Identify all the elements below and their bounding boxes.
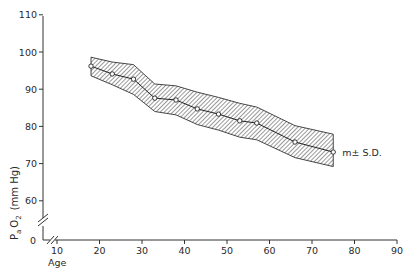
data-point-marker [89,64,93,68]
y-origin-label: 0 [30,235,36,246]
y-tick-label: 100 [19,47,37,58]
x-tick-label: 90 [391,245,403,256]
data-point-marker [174,98,178,102]
data-point-marker [195,107,199,111]
y-tick-label: 60 [25,195,37,206]
x-tick-label: 70 [306,245,318,256]
x-tick-label: 10 [51,245,63,256]
data-point-marker [238,119,242,123]
sd-band-fill [91,57,333,166]
legend-label: m± S.D. [342,147,382,158]
x-tick-label: 60 [263,245,275,256]
y-tick-label: 110 [19,9,37,20]
data-point-marker [255,121,259,125]
data-point-marker [216,112,220,116]
pao2-vs-age-chart: 11010090807060 0 102030405060708090 Age … [0,0,410,278]
x-tick-label: 30 [136,245,148,256]
y-tick-label: 80 [25,121,37,132]
y-ticks: 11010090807060 [19,9,43,206]
chart-container: 11010090807060 0 102030405060708090 Age … [0,0,410,278]
y-axis: 11010090807060 0 [19,9,48,245]
x-tick-label: 40 [178,245,190,256]
data-point-marker [153,96,157,100]
y-axis-label: PaO2(mm Hg) [9,166,23,240]
x-axis: 102030405060708090 Age [43,236,403,268]
data-point-marker [110,72,114,76]
data-point-marker [131,77,135,81]
y-tick-label: 90 [25,84,37,95]
data-point-marker [293,140,297,144]
sd-band [91,57,333,166]
y-tick-label: 70 [25,158,37,169]
x-tick-label: 50 [221,245,233,256]
x-tick-label: 20 [93,245,105,256]
data-point-marker [331,150,335,154]
x-axis-label: Age [48,257,67,268]
x-ticks: 102030405060708090 [51,240,403,256]
x-tick-label: 80 [348,245,360,256]
